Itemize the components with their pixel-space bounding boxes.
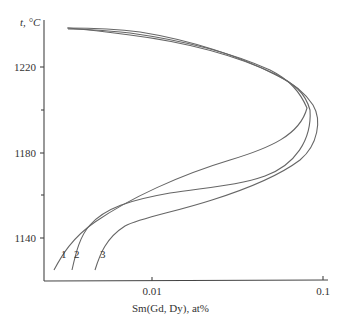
- x-tick-label-0.1: 0.1: [316, 285, 330, 297]
- x-tick-label-0.01: 0.01: [142, 285, 161, 297]
- curve-3: [67, 28, 318, 270]
- y-tick-label-1220: 1220: [14, 61, 37, 73]
- curve-label-3: 3: [100, 248, 106, 260]
- curve-2: [68, 28, 310, 270]
- x-axis-label: Sm(Gd, Dy), at%: [132, 302, 209, 315]
- curve-label-1: 1: [61, 248, 67, 260]
- curve-label-2: 2: [74, 248, 80, 260]
- phase-diagram-chart: t, °C 1220 1180 1140 0.01 0.1 Sm(Gd, Dy)…: [0, 0, 345, 330]
- y-tick-label-1180: 1180: [14, 147, 36, 159]
- x-axis: [44, 280, 328, 281]
- y-tick-label-1140: 1140: [14, 232, 36, 244]
- y-axis-label: t, °C: [20, 16, 41, 28]
- curve-1: [54, 29, 307, 270]
